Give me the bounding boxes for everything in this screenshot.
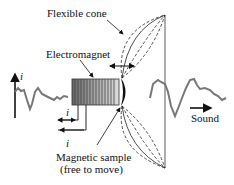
flexible-cone-label: Flexible cone	[47, 8, 107, 19]
flexible-cone	[121, 15, 165, 168]
current-in-label: i	[66, 107, 69, 118]
flexible-cone-leader	[107, 20, 123, 34]
electromagnet-coil	[72, 79, 119, 105]
magnetic-sample	[121, 78, 126, 106]
loudspeaker-diagram: Flexible cone Electromagnet i i i Magnet…	[0, 0, 234, 185]
sound-label: Sound	[191, 113, 219, 124]
current-axis-label: i	[20, 71, 23, 82]
lead-wires	[58, 105, 86, 130]
current-out-label: i	[66, 138, 69, 149]
electromagnet-leader	[80, 60, 93, 77]
sound-waveform	[150, 79, 226, 116]
input-waveform	[15, 88, 68, 109]
magnetic-sample-leader	[97, 108, 120, 145]
electromagnet-label: Electromagnet	[46, 49, 110, 60]
magnetic-sample-label-line1: Magnetic sample	[56, 152, 131, 163]
magnetic-sample-label-line2: (free to move)	[60, 164, 123, 175]
